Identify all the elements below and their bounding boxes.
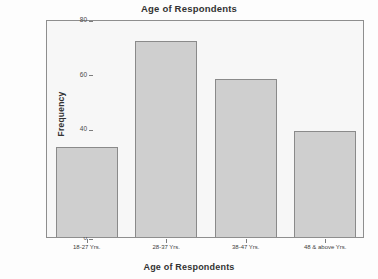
- y-tick-mark: [89, 130, 93, 131]
- y-tick-label: 60: [80, 71, 87, 78]
- x-tick-mark: [246, 239, 247, 243]
- bar: [135, 41, 197, 237]
- x-tick-mark: [87, 239, 88, 243]
- x-axis-label: Age of Respondents: [0, 262, 378, 272]
- bar: [215, 79, 277, 237]
- bar: [56, 147, 118, 237]
- x-tick-label: 18-27 Yrs.: [42, 244, 132, 250]
- plot-area: Frequency 020406080 18-27 Yrs.28-37 Yrs.…: [46, 20, 364, 238]
- y-tick-label: 40: [80, 125, 87, 132]
- bar: [294, 131, 356, 237]
- y-tick-mark: [89, 75, 93, 76]
- x-tick-mark: [325, 239, 326, 243]
- x-tick-label: 48 & above Yrs.: [280, 244, 370, 250]
- y-tick-mark: [89, 239, 93, 240]
- chart-figure: Age of Respondents Frequency 020406080 1…: [0, 0, 378, 279]
- y-tick-mark: [89, 21, 93, 22]
- chart-title: Age of Respondents: [0, 3, 378, 14]
- x-tick-label: 28-37 Yrs.: [121, 244, 211, 250]
- x-tick-mark: [166, 239, 167, 243]
- y-tick-label: 80: [80, 16, 87, 23]
- x-tick-label: 38-47 Yrs.: [201, 244, 291, 250]
